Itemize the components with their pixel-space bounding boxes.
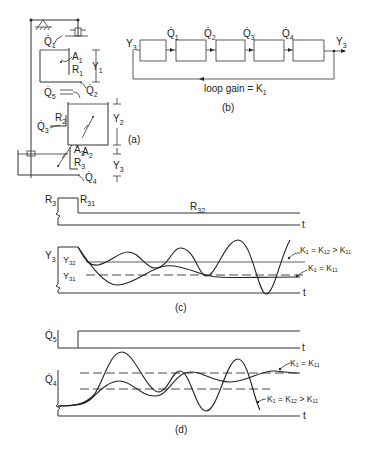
y31-label: Y31 (63, 271, 76, 282)
q3-label: Q̇3 (37, 120, 49, 134)
block-1 (140, 40, 166, 61)
q5-label: Q̇5 (44, 86, 56, 100)
block-3 (216, 40, 245, 61)
loop-gain-label: loop gain = K1 (204, 83, 267, 96)
panel-c-caption: (c) (175, 302, 187, 313)
panel-a-caption: (a) (128, 134, 140, 145)
figure-canvas: Q̇1 A1 R1 Y1 Q̇2 Q̇5 R2 A2 Q̇3 (0, 0, 368, 449)
panel-b-block-diagram: Y3 Q̇1 Q̇2 Q̇3 Q̇4 Y3 loop gain = K1 (b) (126, 27, 347, 113)
q2-label: Q̇2 (86, 84, 98, 98)
r3-axis-label: R3 (45, 194, 56, 207)
q4-label: Q̇4 (85, 171, 97, 185)
r2-label: R2 (55, 112, 66, 125)
r3-label: R3 (74, 157, 85, 170)
t-axis-label-r: t (302, 219, 305, 230)
y3-axis-label: Y3 (45, 250, 56, 263)
r1-label: R1 (72, 64, 83, 77)
panel-d-chart: Q̇5 t Q̇4 t K₁ = K₁₁ K₁ = K₁₂ > K₁₁ (d) (45, 329, 320, 435)
t-axis-label-q4: t (303, 410, 306, 421)
y3-label: Y3 (113, 160, 124, 173)
panel-a-tank-system: Q̇1 A1 R1 Y1 Q̇2 Q̇5 R2 A2 Q̇3 (18, 19, 140, 186)
legend-stable-c: K₁ = K₁₁ (308, 263, 338, 273)
output-y3-label: Y3 (336, 36, 347, 49)
curve-stable-k11-d (58, 371, 300, 406)
q1-label: Q̇1 (44, 35, 56, 49)
y32-label: Y32 (63, 255, 76, 266)
block-5 (293, 40, 324, 61)
r31-label: R31 (80, 194, 95, 207)
curve-unstable-k12 (78, 240, 290, 294)
a1-label: A1 (72, 51, 83, 64)
y2-label: Y2 (113, 113, 124, 126)
legend-unstable-d: K₁ = K₁₂ > K₁₁ (267, 394, 318, 404)
panel-b-caption: (b) (222, 102, 234, 113)
signal-q1: Q̇1 (167, 27, 179, 41)
t-axis-label-q5: t (302, 342, 305, 353)
r32-label: R32 (190, 201, 205, 214)
t-axis-label-y: t (303, 287, 306, 298)
q5-axis-label: Q̇5 (45, 329, 57, 343)
y1-label: Y1 (92, 61, 103, 74)
signal-q3: Q̇3 (243, 27, 255, 41)
block-4 (254, 40, 284, 61)
input-y3-label: Y3 (126, 38, 137, 51)
panel-d-caption: (d) (175, 424, 187, 435)
signal-q2: Q̇2 (204, 27, 216, 41)
signal-q4: Q̇4 (282, 27, 294, 41)
q4-axis-label: Q̇4 (45, 373, 57, 387)
panel-c-chart: R3 R31 R32 t Y3 t Y32 Y31 K₁ = K₁₂ > K₁₁… (45, 194, 351, 313)
legend-unstable-c: K₁ = K₁₂ > K₁₁ (300, 245, 351, 255)
block-2 (176, 40, 206, 61)
legend-stable-d: K₁ = K₁₁ (290, 358, 320, 368)
